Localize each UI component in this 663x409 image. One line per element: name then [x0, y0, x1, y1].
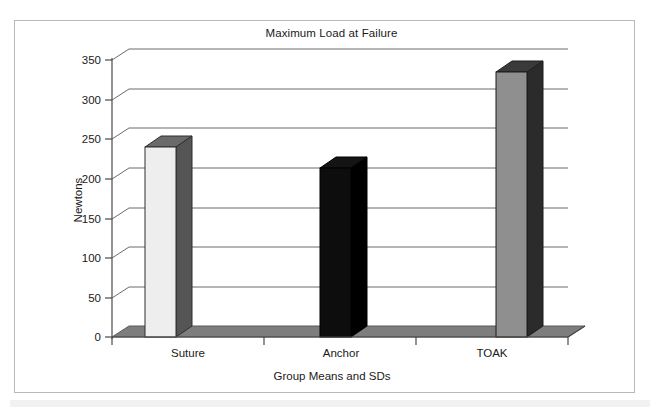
bar-anchor[interactable] [320, 157, 367, 337]
bar-suture[interactable] [145, 136, 192, 337]
x-axis-title: Group Means and SDs [274, 370, 391, 382]
gridline-350 [112, 49, 568, 60]
x-category-label-toak: TOAK [476, 347, 507, 359]
bar-suture-side [176, 136, 192, 337]
y-axis [105, 58, 112, 339]
y-tick-label-0: 0 [95, 331, 101, 343]
y-tick-label-150: 150 [82, 213, 101, 225]
y-axis-title: Newtons [72, 177, 84, 222]
x-category-label-anchor: Anchor [323, 347, 360, 359]
x-category-labels: Suture Anchor TOAK [171, 347, 508, 359]
y-tick-label-300: 300 [82, 94, 101, 106]
bar-suture-front [145, 147, 176, 337]
y-tick-label-100: 100 [82, 252, 101, 264]
figure-canvas: Maximum Load at Failure [0, 0, 663, 409]
bar-toak[interactable] [496, 61, 543, 337]
y-tick-label-250: 250 [82, 133, 101, 145]
bar-chart: 350 300 250 200 150 100 50 0 Newtons [0, 0, 663, 409]
bar-anchor-side [351, 157, 367, 337]
x-category-label-suture: Suture [171, 347, 205, 359]
bar-toak-side [527, 61, 543, 337]
bar-anchor-front [320, 168, 351, 337]
y-tick-label-50: 50 [88, 292, 101, 304]
y-tick-label-350: 350 [82, 54, 101, 66]
bar-toak-front [496, 72, 527, 337]
y-tick-labels: 350 300 250 200 150 100 50 0 [82, 54, 101, 343]
y-tick-label-200: 200 [82, 173, 101, 185]
